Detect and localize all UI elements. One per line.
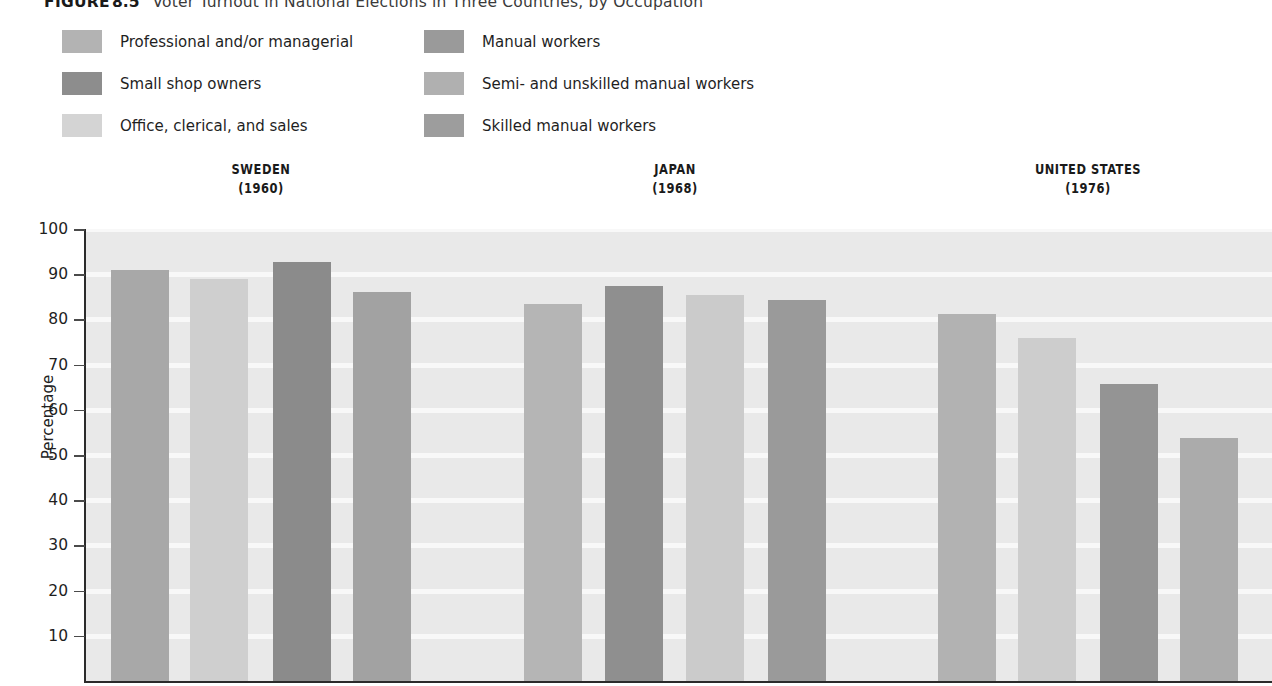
plot-area: Percentage 100908070605040302010	[0, 222, 1272, 686]
bar	[938, 314, 996, 681]
country-header: JAPAN(1968)	[578, 160, 772, 198]
bar	[1100, 384, 1158, 681]
legend-item-label: Small shop owners	[120, 75, 261, 93]
y-tick-mark	[74, 274, 85, 276]
y-tick-label: 30	[12, 536, 68, 554]
bar	[353, 292, 411, 681]
figure-caption: FIGURE8.5Voter Turnout in National Elect…	[44, 0, 703, 11]
y-tick-label: 50	[12, 446, 68, 464]
legend-item: Semi- and unskilled manual workers	[424, 72, 754, 95]
y-tick-label: 80	[12, 310, 68, 328]
legend-item-label: Semi- and unskilled manual workers	[482, 75, 754, 93]
legend-item-label: Professional and/or managerial	[120, 33, 353, 51]
bar	[1018, 338, 1076, 681]
y-tick-mark	[74, 319, 85, 321]
country-name: SWEDEN	[164, 160, 358, 179]
y-tick-mark	[74, 455, 85, 457]
legend-swatch	[62, 72, 102, 95]
caption-title: Voter Turnout in National Elections in T…	[152, 0, 703, 11]
legend-column-1: Professional and/or managerialSmall shop…	[62, 30, 353, 156]
y-tick-mark	[74, 410, 85, 412]
y-tick-label: 70	[12, 356, 68, 374]
y-tick-label: 90	[12, 265, 68, 283]
legend-swatch	[424, 114, 464, 137]
legend-item: Office, clerical, and sales	[62, 114, 353, 137]
country-header: UNITED STATES(1976)	[991, 160, 1185, 198]
bar	[111, 270, 169, 681]
country-name: JAPAN	[578, 160, 772, 179]
y-tick-label: 10	[12, 627, 68, 645]
country-year: (1976)	[991, 179, 1185, 198]
bar	[605, 286, 663, 681]
legend-item: Small shop owners	[62, 72, 353, 95]
legend-item-label: Skilled manual workers	[482, 117, 656, 135]
country-year: (1968)	[578, 179, 772, 198]
bar	[686, 295, 744, 681]
x-axis-line	[84, 681, 1272, 683]
legend-item: Professional and/or managerial	[62, 30, 353, 53]
figure-root: FIGURE8.5Voter Turnout in National Elect…	[0, 0, 1272, 686]
legend-item: Manual workers	[424, 30, 754, 53]
y-tick-label: 40	[12, 491, 68, 509]
legend-column-2: Manual workersSemi- and unskilled manual…	[424, 30, 754, 156]
bars-layer	[86, 229, 1272, 681]
legend-swatch	[424, 72, 464, 95]
country-year: (1960)	[164, 179, 358, 198]
legend-item-label: Office, clerical, and sales	[120, 117, 308, 135]
y-tick-label: 100	[12, 220, 68, 238]
legend-item: Skilled manual workers	[424, 114, 754, 137]
bar	[524, 304, 582, 681]
legend-swatch	[62, 114, 102, 137]
caption-figure-word: FIGURE	[44, 0, 110, 11]
country-header: SWEDEN(1960)	[164, 160, 358, 198]
y-tick-label: 60	[12, 401, 68, 419]
y-tick-label: 20	[12, 582, 68, 600]
legend-swatch	[62, 30, 102, 53]
legend-swatch	[424, 30, 464, 53]
legend-item-label: Manual workers	[482, 33, 600, 51]
y-tick-mark	[74, 545, 85, 547]
y-tick-mark	[74, 229, 85, 231]
bar	[273, 262, 331, 681]
y-tick-mark	[74, 636, 85, 638]
y-tick-mark	[74, 591, 85, 593]
bar	[768, 300, 826, 681]
caption-figure-number: 8.5	[112, 0, 139, 11]
y-tick-mark	[74, 365, 85, 367]
y-tick-mark	[74, 500, 85, 502]
bar	[190, 279, 248, 681]
bar	[1180, 438, 1238, 681]
country-name: UNITED STATES	[991, 160, 1185, 179]
